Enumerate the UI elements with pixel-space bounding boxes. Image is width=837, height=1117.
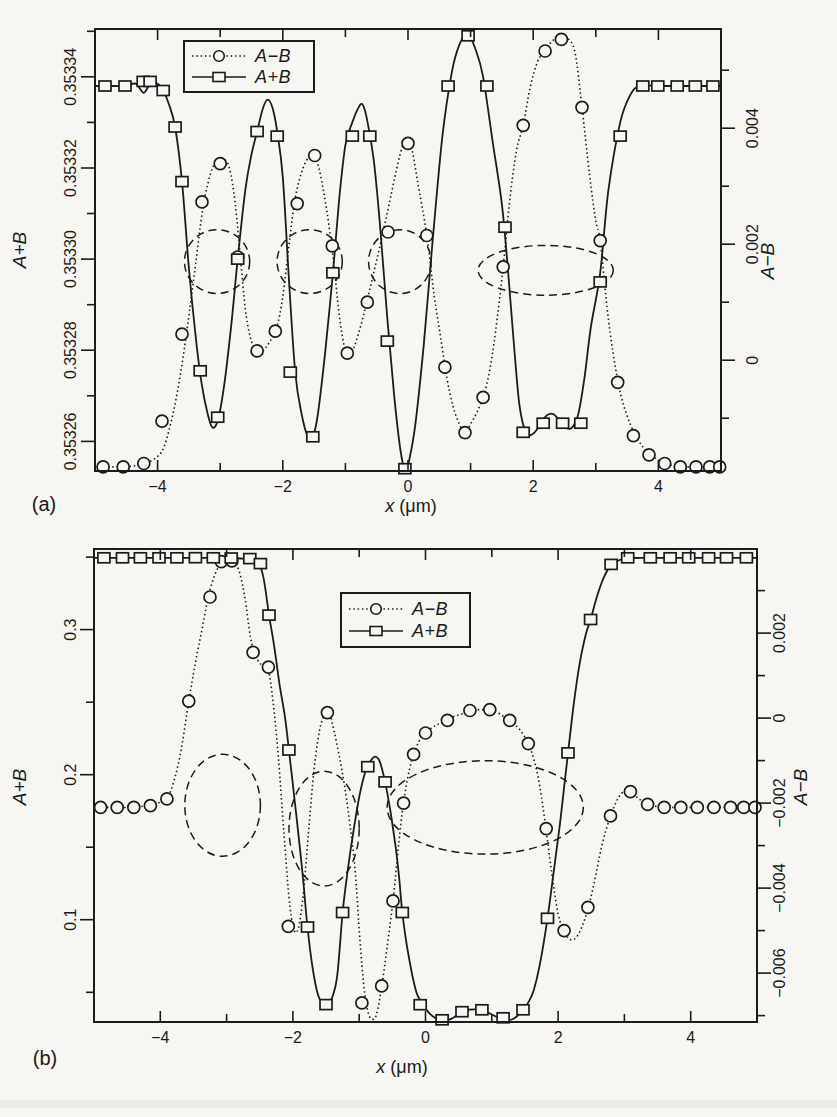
square-marker bbox=[476, 1005, 488, 1015]
right-tick-label: 0.002 bbox=[771, 613, 788, 653]
legend-a-label-a-plus-b: A+B bbox=[255, 68, 291, 86]
circle-marker bbox=[138, 458, 150, 470]
legend-a-entry-a-minus-b: A−B bbox=[191, 47, 307, 65]
circle-marker bbox=[382, 226, 394, 238]
circle-marker bbox=[262, 661, 274, 673]
left-tick-label: 0.2 bbox=[62, 763, 79, 785]
left-tick-label: 0.1 bbox=[62, 908, 79, 930]
circle-marker bbox=[269, 325, 281, 337]
circle-marker bbox=[361, 296, 373, 308]
circle-marker bbox=[439, 361, 451, 373]
x-axis-label-b-unit: (μm) bbox=[390, 1057, 427, 1077]
square-marker bbox=[134, 553, 146, 563]
square-marker bbox=[176, 177, 188, 187]
x-axis-label-a-var: x bbox=[385, 496, 394, 516]
square-marker bbox=[119, 81, 131, 91]
square-marker bbox=[517, 1005, 529, 1015]
square-marker bbox=[263, 610, 275, 620]
right-tick-label: −0.002 bbox=[771, 778, 788, 827]
plot-a-highlight-ellipses bbox=[185, 230, 614, 295]
legend-sample-solid-square-icon bbox=[191, 70, 247, 84]
circle-marker bbox=[196, 196, 208, 208]
plot-b-tick-labels: −4−20240.10.20.30.0020−0.002−0.004−0.006 bbox=[62, 613, 788, 1046]
circle-marker bbox=[247, 646, 259, 658]
circle-marker bbox=[522, 738, 534, 750]
x-tick-label: 2 bbox=[554, 1029, 563, 1046]
square-marker bbox=[637, 81, 649, 91]
circle-marker bbox=[576, 101, 588, 113]
legend-b-label-a-minus-b: A−B bbox=[412, 600, 448, 618]
plot-a-series-line-a-plus-b bbox=[95, 34, 721, 470]
circle-marker bbox=[420, 727, 432, 739]
square-marker bbox=[436, 1015, 448, 1025]
square-marker bbox=[307, 432, 319, 442]
square-marker bbox=[153, 553, 165, 563]
square-marker bbox=[594, 277, 606, 287]
legend-a: A−B A+B bbox=[183, 40, 315, 93]
circle-marker bbox=[612, 376, 624, 388]
plot-a-markers-a-plus-b bbox=[99, 31, 719, 474]
circle-marker bbox=[128, 801, 140, 813]
highlight-ellipse bbox=[185, 754, 261, 856]
left-tick-label: 0.35328 bbox=[62, 321, 79, 379]
circle-marker bbox=[594, 235, 606, 247]
square-marker bbox=[117, 553, 129, 563]
x-tick-label: 0 bbox=[404, 478, 413, 495]
legend-sample-solid-square-icon bbox=[348, 624, 404, 638]
x-tick-label: −2 bbox=[284, 1029, 302, 1046]
square-marker bbox=[327, 268, 339, 278]
scan-artifact bbox=[0, 1100, 837, 1108]
circle-marker bbox=[398, 797, 410, 809]
square-marker bbox=[481, 81, 493, 91]
x-tick-label: −2 bbox=[274, 478, 292, 495]
circle-marker bbox=[459, 427, 471, 439]
x-tick-label: 4 bbox=[686, 1029, 695, 1046]
circle-marker bbox=[497, 261, 509, 273]
right-tick-label: 0 bbox=[771, 714, 788, 723]
circle-marker bbox=[659, 458, 671, 470]
circle-marker bbox=[642, 798, 654, 810]
left-tick-label: 0.35334 bbox=[62, 48, 79, 106]
legend-a-entry-a-plus-b: A+B bbox=[191, 68, 307, 86]
right-tick-label: −0.004 bbox=[771, 863, 788, 912]
right-tick-label: −0.006 bbox=[771, 948, 788, 997]
circle-marker bbox=[582, 901, 594, 913]
square-marker bbox=[414, 1000, 426, 1010]
circle-marker bbox=[605, 810, 617, 822]
circle-marker bbox=[691, 801, 703, 813]
square-marker bbox=[232, 254, 244, 264]
x-tick-label: −4 bbox=[151, 1029, 169, 1046]
left-axis-title-a: A+B bbox=[9, 232, 31, 268]
circle-marker bbox=[341, 347, 353, 359]
circle-marker bbox=[441, 714, 453, 726]
figure-page: −4−20240.353260.353280.353300.353320.353… bbox=[0, 0, 837, 1117]
circle-marker bbox=[204, 591, 216, 603]
circle-marker bbox=[558, 925, 570, 937]
caption-b: (b) bbox=[33, 1047, 57, 1070]
caption-a: (a) bbox=[32, 493, 56, 516]
x-tick-label: 4 bbox=[654, 478, 663, 495]
x-axis-label-b: x (μm) bbox=[376, 1057, 427, 1078]
circle-marker bbox=[539, 45, 551, 57]
square-marker bbox=[557, 418, 569, 428]
circle-marker bbox=[176, 328, 188, 340]
circle-marker bbox=[408, 748, 420, 760]
square-marker bbox=[740, 553, 752, 563]
circle-marker bbox=[95, 801, 107, 813]
left-tick-label: 0.35326 bbox=[62, 412, 79, 470]
right-tick-label: 0 bbox=[744, 356, 761, 365]
square-marker bbox=[189, 553, 201, 563]
x-axis-label-a-unit: (μm) bbox=[399, 496, 436, 516]
square-marker bbox=[644, 553, 656, 563]
square-marker bbox=[542, 913, 554, 923]
plot-a-markers-a-minus-b bbox=[97, 33, 726, 473]
square-marker bbox=[462, 31, 474, 41]
circle-marker bbox=[675, 801, 687, 813]
legend-a-label-a-minus-b: A−B bbox=[255, 47, 291, 65]
figure-canvas: −4−20240.353260.353280.353300.353320.353… bbox=[0, 0, 837, 1117]
circle-marker bbox=[144, 800, 156, 812]
square-marker bbox=[671, 81, 683, 91]
square-marker bbox=[283, 745, 295, 755]
left-axis-title-b: A+B bbox=[9, 769, 31, 805]
circle-marker bbox=[540, 823, 552, 835]
